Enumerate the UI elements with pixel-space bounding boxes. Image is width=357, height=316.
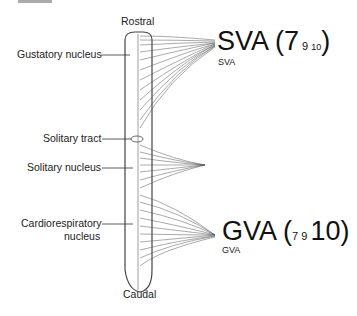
rostral-label: Rostral [121, 15, 154, 27]
sva-heading: SVA (7 9 10) [217, 28, 330, 55]
cardiorespiratory-nucleus-label-2: nucleus [64, 230, 100, 242]
caudal-label: Caudal [123, 288, 156, 300]
gva-caption: GVA [222, 245, 240, 255]
solitary-tract-label: Solitary tract [43, 132, 101, 144]
cardiorespiratory-nucleus-label: Cardiorespiratory [21, 217, 102, 229]
gva-heading: GVA (7 9 10) [222, 218, 349, 245]
gustatory-nucleus-label: Gustatory nucleus [17, 48, 102, 60]
sva-caption: SVA [218, 57, 235, 67]
solitary-nucleus-label: Solitary nucleus [27, 161, 101, 173]
